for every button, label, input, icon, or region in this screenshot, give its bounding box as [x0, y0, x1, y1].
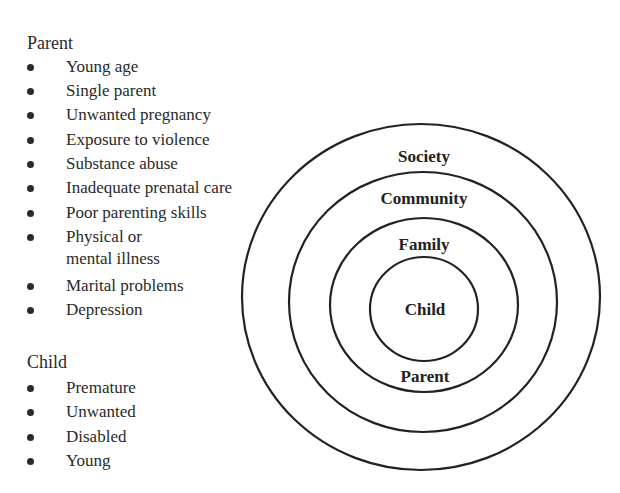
society-ring — [242, 124, 600, 470]
concentric-circles-diagram: Society Community Family Child Parent — [0, 0, 620, 493]
parent-label: Parent — [401, 367, 450, 386]
child-label: Child — [405, 300, 446, 319]
society-label: Society — [398, 147, 450, 166]
community-label: Community — [381, 189, 468, 208]
family-label: Family — [399, 235, 450, 254]
